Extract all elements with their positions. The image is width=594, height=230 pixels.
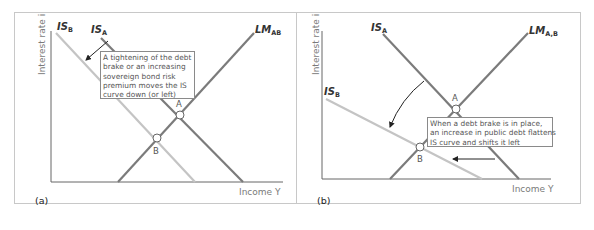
is-b-label: ISB (324, 86, 340, 99)
annotation-box-a: A tightening of the debt brake or an inc… (100, 51, 195, 99)
x-axis-label: Income Y (512, 184, 554, 194)
is-a-label: ISA (371, 22, 387, 35)
x-axis-label: Income Y (239, 187, 281, 197)
equilibrium-a (452, 105, 460, 113)
note-line: When a debt brake is in place, (430, 119, 550, 128)
is-b-label: ISB (57, 21, 73, 34)
is-lm-diagram-a: Interest rate i Income Y ISB ISA LMAB A … (15, 13, 297, 205)
y-axis-label: Interest rate i (37, 14, 47, 75)
note-line: sovereign bond risk (103, 72, 192, 81)
note-line: premium moves the IS (103, 81, 192, 90)
panel-b-tag: (b) (317, 195, 330, 205)
point-b-label: B (153, 146, 159, 156)
y-axis-label: Interest rate i (311, 14, 321, 75)
panel-b: Interest rate i Income Y ISA ISB LMA,B A… (296, 12, 581, 204)
is-a-curve (383, 34, 519, 179)
note-line: IS curve and shifts it left (430, 138, 550, 147)
panel-a-tag: (a) (35, 195, 48, 205)
equilibrium-b (153, 134, 161, 142)
lm-label: LMAB (255, 24, 281, 37)
note-line: A tightening of the debt (103, 53, 192, 62)
is-lm-diagram-b: Interest rate i Income Y ISA ISB LMA,B A… (297, 13, 582, 205)
point-b-label: B (417, 154, 423, 164)
is-a-label: ISA (91, 24, 107, 37)
point-a-label: A (176, 99, 182, 109)
point-a-label: A (452, 93, 458, 103)
note-line: brake or an increasing (103, 62, 192, 71)
rotation-arrow (390, 81, 424, 127)
note-line: an increase in public debt flattens (430, 128, 550, 137)
lm-label: LMA,B (529, 25, 558, 38)
equilibrium-a (176, 111, 184, 119)
equilibrium-b (416, 143, 424, 151)
note-line: curve down (or left) (103, 90, 192, 99)
panel-a: Interest rate i Income Y ISB ISA LMAB A … (14, 12, 296, 204)
annotation-box-b: When a debt brake is in place, an increa… (427, 117, 553, 147)
